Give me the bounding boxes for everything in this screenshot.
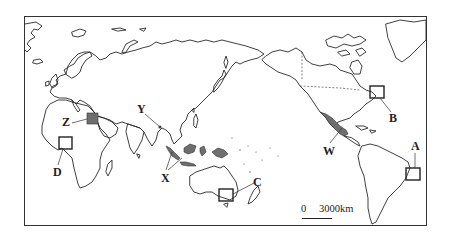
japan-outline — [214, 70, 226, 92]
south-america-outline — [358, 144, 410, 224]
arctic-islands-outline — [112, 28, 146, 31]
scale-bar — [302, 218, 332, 219]
leader-b — [380, 98, 391, 112]
label-d: D — [53, 166, 62, 178]
madagascar-outline — [106, 160, 112, 176]
leader-c — [233, 183, 254, 194]
scale-zero: 0 — [301, 204, 306, 215]
north-america-outline — [262, 48, 376, 128]
leader-d — [58, 149, 63, 165]
label-y: Y — [137, 103, 146, 115]
greenland-outline — [25, 22, 42, 52]
india-outline — [126, 124, 144, 154]
australia-outline — [190, 166, 238, 200]
label-z: Z — [62, 116, 70, 128]
label-b: B — [389, 112, 397, 124]
eurasia-outline — [50, 40, 264, 146]
hudson-bay-outline — [350, 60, 362, 74]
label-w: W — [323, 145, 335, 157]
central-america-outline — [344, 136, 360, 146]
region-w-shaded — [320, 112, 348, 136]
philippines-outline — [192, 108, 198, 128]
leader-x2 — [168, 158, 182, 170]
caribbean-outline — [356, 126, 376, 133]
region-d-box — [59, 137, 72, 149]
region-a-box — [406, 168, 420, 180]
iceland-outline — [33, 59, 43, 64]
svalbard-outline — [72, 29, 86, 37]
scale-distance: 3000km — [319, 204, 353, 215]
tasmania-outline — [224, 203, 228, 207]
leader-y — [145, 114, 160, 127]
canadian-arctic-outline — [326, 34, 366, 56]
leader-z — [72, 119, 87, 123]
sakhalin-outline — [224, 56, 228, 68]
greenland-right-outline — [386, 20, 426, 62]
pacific-islands — [231, 137, 278, 172]
scandinavia-outline — [66, 52, 92, 78]
region-z-shaded — [87, 113, 98, 124]
label-x: X — [161, 172, 170, 184]
label-a: A — [411, 140, 420, 152]
canada-us-border — [300, 86, 360, 90]
label-c: C — [253, 176, 262, 188]
region-x-shaded — [166, 144, 228, 166]
sri-lanka-outline — [137, 154, 140, 158]
